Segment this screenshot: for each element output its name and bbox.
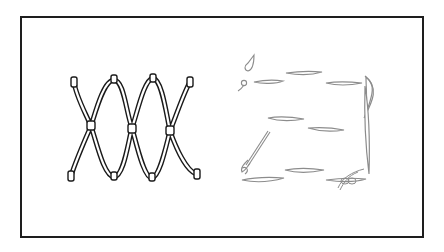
stitch bbox=[254, 80, 283, 83]
stitch bbox=[326, 82, 362, 85]
stitch bbox=[268, 117, 304, 120]
stitched-outline bbox=[242, 71, 373, 181]
knot-3 bbox=[166, 126, 174, 135]
artwork bbox=[0, 0, 444, 252]
thread-end-icon bbox=[238, 55, 254, 91]
stitch bbox=[242, 177, 284, 181]
knot-1 bbox=[87, 121, 95, 130]
stitch bbox=[286, 71, 322, 74]
stitch bbox=[308, 128, 344, 131]
needle-icon bbox=[241, 131, 270, 174]
illustration-canvas: Knotted cord net and faded stitched outl… bbox=[0, 0, 444, 252]
knot-2 bbox=[128, 124, 136, 133]
stitch bbox=[285, 169, 324, 173]
